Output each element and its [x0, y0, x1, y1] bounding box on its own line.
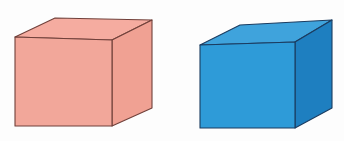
illustration-canvas [0, 0, 344, 141]
blue-cube-front-face [200, 42, 295, 128]
cubes-svg [0, 0, 344, 141]
pink-cube-front-face [15, 37, 112, 126]
pink-cube [15, 18, 152, 126]
blue-cube [200, 20, 332, 128]
